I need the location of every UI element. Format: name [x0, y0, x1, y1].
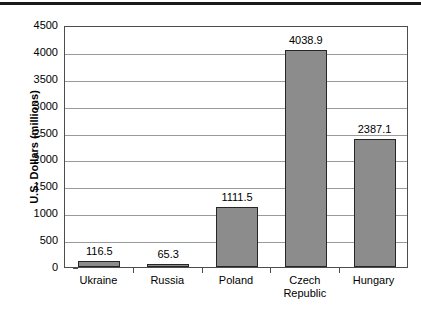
x-axis-tick-mark	[270, 268, 271, 273]
bar-value-label: 2387.1	[358, 124, 392, 135]
bar[interactable]	[285, 50, 327, 267]
y-axis-tick-label: 0	[14, 262, 58, 273]
bars-layer: 116.565.31111.54038.92387.1	[65, 27, 407, 267]
bar-value-label: 116.5	[86, 246, 113, 257]
y-axis-tick-label: 2000	[14, 154, 58, 165]
y-axis-tick-label: 4500	[14, 20, 58, 31]
y-axis-tick-label: 500	[14, 235, 58, 246]
y-axis-tick-labels: 050010001500200025003000350040004500	[14, 26, 58, 268]
x-axis-tick-label: Russia	[133, 274, 202, 287]
bar[interactable]	[147, 264, 189, 268]
x-axis-tick-label: Poland	[202, 274, 271, 287]
bar-chart-figure: U.S. Dollars (millions) 0500100015002000…	[0, 6, 421, 311]
y-axis-tick-label: 3500	[14, 74, 58, 85]
bar-value-label: 4038.9	[289, 35, 323, 46]
y-axis-tick-mark	[73, 268, 78, 269]
bar-value-label: 1111.5	[221, 192, 252, 203]
x-axis-tick-mark	[339, 268, 340, 273]
bar-slot: 1111.5	[203, 27, 272, 267]
plot-area: 116.565.31111.54038.92387.1	[64, 26, 408, 268]
y-axis-tick-label: 4000	[14, 47, 58, 58]
bar[interactable]	[216, 207, 258, 267]
bar-slot: 65.3	[134, 27, 203, 267]
bar-slot: 2387.1	[340, 27, 409, 267]
bar-slot: 116.5	[65, 27, 134, 267]
y-axis-tick-label: 3000	[14, 101, 58, 112]
x-axis-tick-label: Ukraine	[64, 274, 133, 287]
header-divider-rule	[0, 2, 421, 5]
y-axis-tick-label: 1500	[14, 181, 58, 192]
bar[interactable]	[354, 139, 396, 267]
x-axis-tick-label: Czech Republic	[270, 274, 339, 300]
bar-value-label: 65.3	[157, 249, 178, 260]
x-axis-tick-mark	[133, 268, 134, 273]
bar-slot: 4038.9	[271, 27, 340, 267]
x-axis-tick-mark	[202, 268, 203, 273]
x-axis-tick-labels: UkraineRussiaPolandCzech RepublicHungary	[64, 274, 408, 311]
y-axis-tick-label: 2500	[14, 128, 58, 139]
y-axis-tick-label: 1000	[14, 208, 58, 219]
x-axis-tick-label: Hungary	[339, 274, 408, 287]
bar[interactable]	[78, 261, 120, 267]
